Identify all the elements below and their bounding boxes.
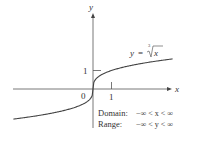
y-axis-arrow-icon <box>91 13 95 18</box>
x-axis-label: x <box>174 84 179 94</box>
origin-label: 0 <box>81 91 86 101</box>
x-axis-arrow-icon <box>167 87 172 91</box>
range-expr: −∞ < y < ∞ <box>136 120 173 129</box>
function-lhs: y <box>129 48 134 58</box>
radicand: x <box>153 48 158 58</box>
radical-index: 3 <box>148 43 151 48</box>
x-tick-label: 1 <box>109 92 114 102</box>
function-equals: = <box>138 48 143 58</box>
y-tick-label: 1 <box>83 66 88 76</box>
y-axis-label: y <box>88 2 93 12</box>
cube-root-graph: y x 0 1 1 y = 3 x Domain: −∞ < x < ∞ Ran… <box>0 0 197 146</box>
range-label: Range: <box>98 119 122 129</box>
function-label: y = 3 x <box>129 43 163 58</box>
domain-expr: −∞ < x < ∞ <box>136 109 173 118</box>
domain-label: Domain: <box>98 108 128 118</box>
